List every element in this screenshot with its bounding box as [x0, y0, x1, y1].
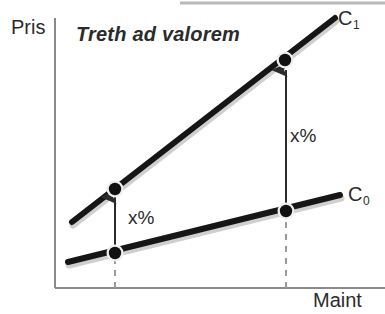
point-c0-left: [109, 247, 121, 259]
annotation-pct-right: x%: [290, 126, 316, 145]
chart-title: Treth ad valorem: [76, 24, 240, 44]
curve-label-c1-subscript: 1: [353, 18, 360, 32]
point-c1-right: [279, 54, 291, 66]
point-c0-right: [280, 205, 292, 217]
curve-label-c1: C1: [338, 8, 359, 28]
annotation-pct-left: x%: [128, 208, 154, 227]
curve-label-c1-base: C: [338, 7, 352, 29]
curve-label-c0-subscript: 0: [363, 194, 370, 208]
curve-label-c0-base: C: [348, 183, 362, 205]
x-axis-label: Maint: [313, 290, 362, 310]
chart-figure: Pris Maint Treth ad valorem C1 C0 x% x%: [0, 0, 385, 314]
chart-canvas: [0, 0, 385, 314]
point-c1-left: [109, 183, 121, 195]
y-axis-label: Pris: [11, 17, 45, 37]
curve-label-c0: C0: [348, 184, 369, 204]
